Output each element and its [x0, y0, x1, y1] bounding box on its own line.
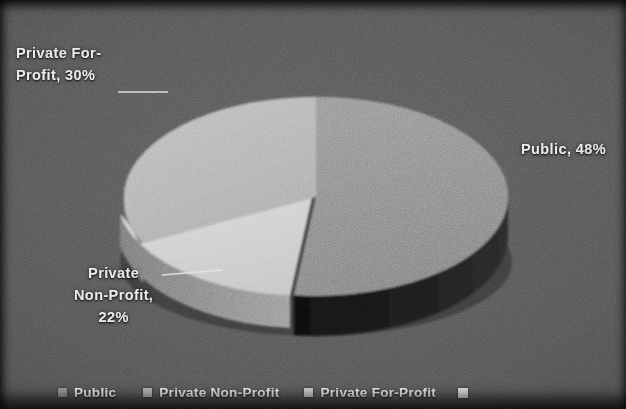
pie-body: [120, 97, 508, 336]
slice-label-private-non-profit: Private Non-Profit, 22%: [74, 262, 153, 328]
legend-item-public[interactable]: Public: [58, 385, 116, 400]
legend-item-private-for-profit[interactable]: Private For-Profit: [304, 385, 436, 400]
legend-swatch-private-for-profit-icon: [304, 388, 313, 397]
legend-item-private-non-profit[interactable]: Private Non-Profit: [143, 385, 279, 400]
legend-swatch-public-icon: [58, 388, 67, 397]
legend-label-public: Public: [74, 385, 116, 400]
legend-item-clipped[interactable]: [458, 388, 475, 398]
legend-label-private-non-profit: Private Non-Profit: [159, 385, 279, 400]
slice-label-private-for-profit: Private For- Profit, 30%: [16, 42, 101, 86]
chart-legend: Public Private Non-Profit Private For-Pr…: [0, 385, 626, 400]
legend-swatch-clipped-icon: [458, 388, 468, 398]
legend-swatch-private-non-profit-icon: [143, 388, 152, 397]
slice-label-public: Public, 48%: [521, 138, 606, 160]
pie-chart-screenshot: Private For- Profit, 30% Private Non-Pro…: [0, 0, 626, 409]
legend-label-private-for-profit: Private For-Profit: [320, 385, 436, 400]
